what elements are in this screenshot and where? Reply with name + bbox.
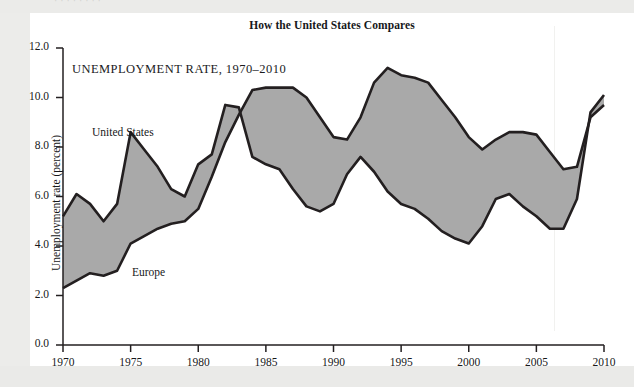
y-axis-ticks	[56, 48, 63, 345]
x-tick-label: 1970	[41, 356, 85, 368]
y-tick-label: 10.0	[15, 90, 49, 102]
y-tick-label: 4.0	[15, 238, 49, 250]
y-tick-label: 6.0	[15, 189, 49, 201]
x-tick-label: 2010	[582, 356, 626, 368]
x-tick-label: 1990	[312, 356, 356, 368]
page-bottom-strip	[0, 366, 634, 387]
x-tick-label: 1975	[109, 356, 153, 368]
series-fill-band	[63, 68, 604, 288]
series-label-united-states: United States	[92, 126, 154, 138]
x-tick-label: 2005	[514, 356, 558, 368]
y-tick-label: 12.0	[15, 40, 49, 52]
figure-card: How the United States Compares UNEMPLOYM…	[30, 13, 634, 366]
x-tick-label: 1985	[244, 356, 288, 368]
x-tick-label: 2000	[447, 356, 491, 368]
y-tick-label: 0.0	[15, 337, 49, 349]
y-tick-label: 8.0	[15, 139, 49, 151]
x-tick-label: 1980	[176, 356, 220, 368]
series-label-europe: Europe	[132, 266, 165, 278]
page-top-strip: · · · · · · · ·	[0, 0, 634, 13]
chart-plot	[30, 13, 634, 366]
x-tick-label: 1995	[379, 356, 423, 368]
ghost-top-text: · · · · · · · ·	[54, 0, 101, 6]
x-axis-ticks	[63, 345, 604, 352]
y-tick-label: 2.0	[15, 288, 49, 300]
